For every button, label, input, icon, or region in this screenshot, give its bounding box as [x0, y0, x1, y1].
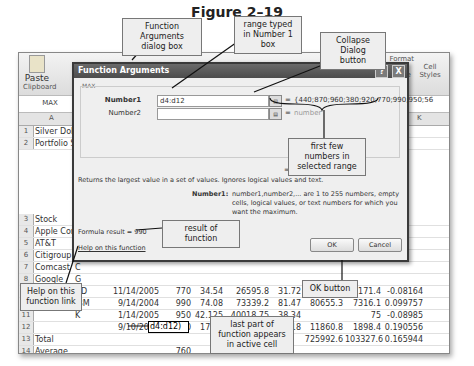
collapse-dialog-button-2[interactable]: ▤: [269, 108, 282, 120]
table-row: 9Home DepHD11/14/200577034.5426595.831.7…: [19, 286, 449, 298]
cell-styles-button[interactable]: Cell Styles: [417, 63, 443, 79]
cell-c[interactable]: 9/14/2004: [99, 298, 159, 309]
callout-ok-button: OK button: [302, 280, 358, 298]
cell-g[interactable]: 31.72: [271, 286, 301, 297]
table-row: 10IBMIBM9/14/200499074.0873339.281.47806…: [19, 298, 449, 310]
cell-j[interactable]: -0.08164: [383, 286, 423, 297]
row-header[interactable]: 12: [19, 322, 34, 333]
cell-a[interactable]: AT&T: [35, 238, 75, 249]
number1-label: Number1: [81, 96, 141, 104]
cell-a[interactable]: Silver Dollar: [35, 126, 75, 137]
callout-collapse-dialog: Collapse Dialog button: [320, 32, 386, 70]
clipboard-group-label: Clipboard: [23, 83, 56, 91]
cell-i[interactable]: 7316.1: [345, 298, 381, 309]
close-icon[interactable]: X: [392, 65, 405, 78]
callout-function-arguments: Function Arguments dialog box: [122, 18, 202, 56]
cell-a[interactable]: Average: [35, 346, 75, 354]
column-header-k[interactable]: K: [417, 114, 422, 122]
row-header[interactable]: 2: [19, 138, 34, 149]
number2-equals: =: [285, 109, 291, 117]
cell-j[interactable]: 0.190556: [383, 322, 423, 333]
ok-button[interactable]: OK: [310, 238, 354, 252]
row-header[interactable]: 4: [19, 226, 34, 237]
function-description: Returns the largest value in a set of va…: [78, 176, 323, 184]
callout-range-typed: range typed in Number 1 box: [234, 16, 302, 54]
cell-h[interactable]: 11860.8: [303, 322, 343, 333]
paste-button[interactable]: Paste: [23, 55, 51, 83]
cell-a[interactable]: Citigroup: [35, 250, 75, 261]
number2-label: Number2: [81, 109, 141, 117]
row-header[interactable]: 6: [19, 250, 34, 261]
cell-i[interactable]: 103327.6: [345, 334, 381, 345]
row-header[interactable]: 11: [19, 310, 34, 321]
table-row: 8GoogleG: [19, 274, 449, 286]
cell-i[interactable]: 75: [345, 310, 381, 321]
cell-f[interactable]: 26595.8: [225, 286, 269, 297]
cancel-button[interactable]: Cancel: [358, 238, 402, 252]
number2-result: number: [294, 109, 321, 117]
help-on-function-link[interactable]: Help on this function: [78, 244, 146, 252]
cell-a[interactable]: Stock: [35, 214, 75, 225]
paste-label: Paste: [25, 73, 49, 83]
argument-description-label: Number1:: [192, 190, 228, 198]
cell-e[interactable]: 34.54: [193, 286, 223, 297]
row-header[interactable]: 7: [19, 262, 34, 273]
cell-j[interactable]: 0.099757: [383, 298, 423, 309]
row-header[interactable]: 1: [19, 126, 34, 137]
cell-d[interactable]: 990: [161, 298, 191, 309]
cell-d[interactable]: 950: [161, 310, 191, 321]
clipboard-icon: [29, 55, 45, 73]
cell-c[interactable]: 1/14/2005: [99, 310, 159, 321]
active-cell[interactable]: d4:d12): [148, 321, 189, 333]
number1-equals: =: [285, 96, 291, 104]
cell-b[interactable]: K: [75, 310, 95, 321]
number1-input[interactable]: d4:d12: [157, 95, 269, 107]
cell-e[interactable]: 74.08: [193, 298, 223, 309]
number2-input[interactable]: [157, 108, 269, 120]
cell-b[interactable]: C: [75, 262, 95, 273]
number1-result: {440;870;960;380;920;770;990;950;56: [294, 96, 433, 104]
cell-h[interactable]: 725992.6: [303, 334, 343, 345]
cell-f[interactable]: 73339.2: [225, 298, 269, 309]
row-header[interactable]: 13: [19, 334, 34, 345]
cell-a[interactable]: Portfolio Su: [35, 138, 75, 149]
collapse-dialog-button-1[interactable]: ▤: [269, 95, 282, 107]
cell-d[interactable]: 770: [161, 286, 191, 297]
cell-i[interactable]: 1898.4: [345, 322, 381, 333]
table-row: 7ComcastC: [19, 262, 449, 274]
column-header-a[interactable]: A: [49, 114, 54, 122]
cell-g[interactable]: 81.47: [271, 298, 301, 309]
row-header[interactable]: 14: [19, 346, 34, 354]
cell-a[interactable]: Apple Cor: [35, 226, 75, 237]
cell-h[interactable]: 80655.3: [303, 298, 343, 309]
cell-d[interactable]: 760: [161, 346, 191, 354]
callout-help-link: Help on this function link: [20, 283, 82, 311]
cell-j[interactable]: -0.08985: [383, 310, 423, 321]
cell-j[interactable]: 0.165944: [383, 334, 423, 345]
callout-result-of-function: result of function: [162, 220, 240, 248]
argument-description: number1,number2,... are 1 to 255 numbers…: [232, 190, 402, 217]
cell-c[interactable]: 11/14/2005: [99, 286, 159, 297]
callout-last-part: last part of function appears in active …: [210, 316, 294, 354]
dialog-title: Function Arguments: [78, 66, 169, 75]
formula-result: Formula result = 990: [78, 228, 147, 236]
cell-a[interactable]: Comcast: [35, 262, 75, 273]
cell-a[interactable]: Total: [35, 334, 75, 345]
callout-first-numbers: first few numbers in selected range: [288, 138, 366, 176]
row-header[interactable]: 3: [19, 214, 34, 225]
row-header[interactable]: 5: [19, 238, 34, 249]
